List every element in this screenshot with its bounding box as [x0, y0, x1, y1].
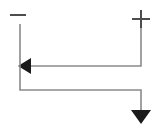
current-flow-diagram: − + Current flow between negative and po…	[0, 0, 162, 133]
diagram-canvas	[0, 0, 162, 133]
